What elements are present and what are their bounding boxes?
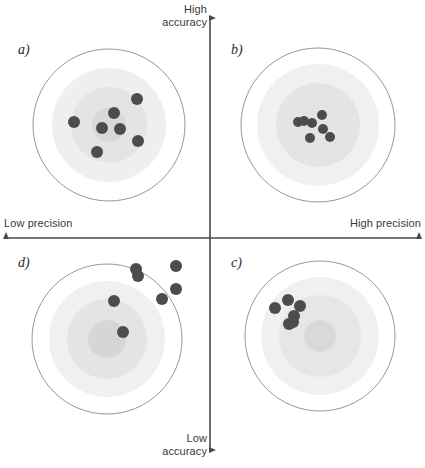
target-panel-c — [245, 261, 395, 411]
data-point-c-1 — [269, 302, 281, 314]
panel-label-c: c) — [231, 255, 242, 271]
data-point-a-5 — [114, 123, 126, 135]
data-point-a-1 — [131, 93, 143, 105]
axis-label-low-accuracy-line2: accuracy — [162, 445, 207, 458]
data-point-b-7 — [325, 132, 335, 142]
data-point-a-2 — [108, 107, 120, 119]
target-panel-b — [241, 48, 395, 202]
panel-label-b: b) — [231, 42, 243, 58]
data-point-b-3 — [307, 118, 317, 128]
panel-label-d: d) — [18, 255, 30, 271]
data-point-d-2 — [132, 270, 144, 282]
data-point-b-4 — [317, 110, 327, 120]
accuracy-precision-figure: High accuracy Low accuracy Low precision… — [0, 0, 425, 468]
data-point-a-3 — [68, 116, 80, 128]
target-ring-inner-b — [276, 83, 360, 167]
data-point-a-7 — [91, 146, 103, 158]
axis-label-low-accuracy-line1: Low — [187, 432, 207, 444]
data-point-c-6 — [283, 318, 295, 330]
axis-label-high-accuracy-line2: accuracy — [162, 16, 207, 29]
data-point-c-3 — [294, 300, 306, 312]
target-ring-core-c — [304, 320, 336, 352]
panels-layer — [32, 48, 395, 414]
data-point-a-6 — [132, 135, 144, 147]
data-point-b-6 — [305, 133, 315, 143]
data-point-b-5 — [318, 124, 328, 134]
data-point-c-2 — [282, 294, 294, 306]
data-point-a-4 — [96, 122, 108, 134]
target-panel-a — [33, 49, 185, 201]
target-panel-d — [32, 260, 182, 414]
data-point-d-6 — [108, 295, 120, 307]
axis-label-high-accuracy: High accuracy — [162, 3, 207, 29]
figure-canvas — [0, 0, 425, 468]
axis-label-high-precision: High precision — [350, 217, 421, 230]
axis-label-low-precision: Low precision — [4, 217, 73, 230]
panel-label-a: a) — [18, 42, 30, 58]
axis-label-low-accuracy: Low accuracy — [162, 432, 207, 458]
data-point-d-4 — [170, 283, 182, 295]
target-ring-core-d — [88, 320, 126, 358]
data-point-d-5 — [156, 293, 168, 305]
axis-label-high-accuracy-line1: High — [184, 3, 207, 15]
data-point-d-7 — [117, 326, 129, 338]
data-point-d-3 — [170, 260, 182, 272]
